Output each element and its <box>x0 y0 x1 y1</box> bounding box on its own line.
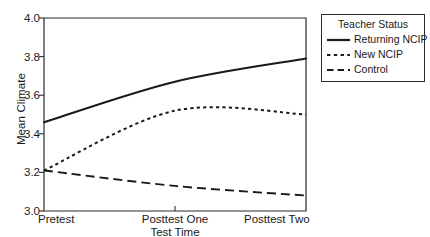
legend-label-control: Control <box>354 64 388 75</box>
legend-label-new-ncip: New NCIP <box>354 49 403 60</box>
legend-title: Teacher Status <box>326 18 420 30</box>
legend-item-control: Control <box>326 62 420 77</box>
x-tick-label-pretest: Pretest <box>38 213 74 225</box>
plot-frame <box>44 18 306 211</box>
series-line-returning-ncip <box>44 59 306 123</box>
legend-item-new-ncip: New NCIP <box>326 47 420 62</box>
chart-figure: Mean Climate 3.0 3.2 3.4 3.6 3.8 4.0 <box>0 0 430 237</box>
legend-swatch-solid-icon <box>326 34 351 46</box>
legend-swatch-dotted-icon <box>326 49 351 61</box>
legend: Teacher Status Returning NCIP New NCIP C… <box>321 14 425 82</box>
series-line-control <box>44 170 306 195</box>
x-tick-label-posttest-two: Posttest Two <box>244 213 310 225</box>
legend-label-returning-ncip: Returning NCIP <box>354 34 428 45</box>
x-tick-label-posttest-one: Posttest One <box>142 213 208 225</box>
x-axis-title: Test Time <box>150 226 199 237</box>
legend-swatch-dashed-icon <box>326 64 351 76</box>
series-line-new-ncip <box>44 107 306 170</box>
legend-item-returning-ncip: Returning NCIP <box>326 32 420 47</box>
y-axis-ticks <box>39 18 44 211</box>
